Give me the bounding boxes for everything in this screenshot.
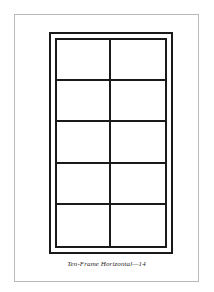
ten-frame-cell[interactable]	[111, 205, 165, 246]
figure-caption: Ten-Frame Horizontal—14	[15, 260, 198, 269]
ten-frame-figure	[49, 32, 173, 254]
ten-frame-cell[interactable]	[57, 40, 111, 81]
ten-frame-cell[interactable]	[111, 81, 165, 122]
worksheet-page: Ten-Frame Horizontal—14	[14, 14, 199, 282]
ten-frame-cell[interactable]	[57, 205, 111, 246]
ten-frame-grid	[55, 38, 167, 248]
ten-frame-cell[interactable]	[111, 122, 165, 163]
ten-frame-cell[interactable]	[57, 81, 111, 122]
ten-frame-cell[interactable]	[111, 164, 165, 205]
ten-frame-cell[interactable]	[57, 122, 111, 163]
frame-outer-border	[49, 32, 173, 254]
ten-frame-cell[interactable]	[57, 164, 111, 205]
ten-frame-cell[interactable]	[111, 40, 165, 81]
